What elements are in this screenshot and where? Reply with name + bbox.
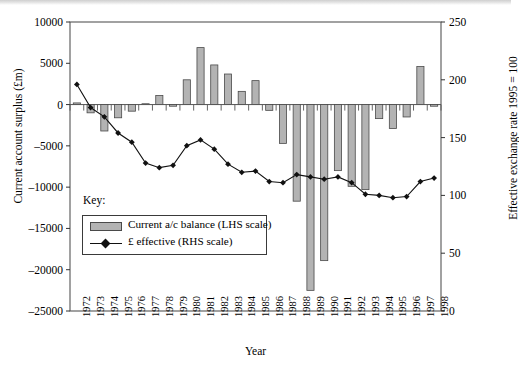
line-marker-1981 (198, 137, 204, 143)
x-tick-label-1986: 1986 (274, 296, 285, 317)
bar-1984 (238, 91, 245, 104)
bar-1992 (348, 105, 355, 187)
bar-1996 (403, 105, 410, 117)
y-left-tick-label: 0 (57, 99, 63, 111)
line-marker-1977 (143, 160, 149, 166)
x-tick-label-1983: 1983 (233, 296, 244, 317)
bar-1991 (334, 105, 341, 171)
x-tick-label-1997: 1997 (425, 296, 436, 317)
line-marker-1998 (431, 175, 437, 181)
x-tick-label-1978: 1978 (164, 296, 175, 317)
bar-1989 (307, 105, 314, 291)
x-tick-label-1987: 1987 (287, 296, 298, 317)
y-left-tick-label: –20000 (28, 264, 64, 276)
x-tick-label-1998: 1998 (439, 296, 450, 317)
x-tick-label-1975: 1975 (123, 296, 134, 317)
legend-bar-label: Current a/c balance (LHS scale) (128, 218, 272, 230)
x-tick-label-1974: 1974 (109, 296, 120, 317)
x-tick-label-1993: 1993 (370, 296, 381, 317)
x-tick-label-1992: 1992 (356, 296, 367, 317)
line-marker-1987 (280, 180, 286, 186)
bar-1978 (156, 95, 163, 104)
y-left-tick-label: –5000 (33, 140, 63, 152)
y-left-tick-label: –10000 (28, 181, 64, 193)
line-marker-1991 (335, 174, 341, 180)
line-marker-1984 (239, 169, 245, 175)
legend-line-label: £ effective (RHS scale) (128, 235, 232, 247)
line-marker-1972 (74, 82, 80, 88)
bar-1987 (279, 105, 286, 144)
line-marker-1995 (390, 195, 396, 201)
bar-1983 (224, 74, 231, 105)
y-left-tick-label: 5000 (40, 57, 63, 69)
bar-1985 (252, 81, 259, 105)
x-tick-label-1980: 1980 (191, 296, 202, 317)
x-tick-label-1996: 1996 (411, 296, 422, 317)
bar-1986 (266, 105, 273, 111)
legend-title: Key: (83, 194, 105, 206)
y-axis-right-title: Effective exchange rate 1995 = 100 (507, 23, 519, 253)
y-right-tick-label: 250 (449, 16, 467, 28)
y-left-tick-label: –25000 (28, 305, 64, 317)
bar-1995 (389, 105, 396, 129)
bar-1976 (128, 105, 135, 112)
x-axis-title: Year (0, 345, 511, 357)
x-tick-label-1981: 1981 (205, 296, 216, 317)
x-tick-label-1972: 1972 (81, 296, 92, 317)
plot-frame (70, 22, 441, 311)
bar-1977 (142, 104, 149, 105)
bar-1990 (321, 105, 328, 261)
x-tick-label-1977: 1977 (150, 296, 161, 317)
x-tick-label-1990: 1990 (329, 296, 340, 317)
line-marker-1976 (129, 139, 135, 145)
y-right-tick-label: 200 (449, 74, 467, 86)
line-marker-1994 (376, 193, 382, 199)
bar-1988 (293, 105, 300, 202)
bar-1981 (197, 48, 204, 105)
x-tick-label-1979: 1979 (178, 296, 189, 317)
bar-1994 (376, 105, 383, 119)
chart-legend: Current a/c balance (LHS scale) £ effect… (82, 215, 267, 255)
y-right-tick-label: 50 (449, 247, 461, 259)
bar-1975 (115, 105, 122, 118)
x-tick-label-1984: 1984 (246, 296, 257, 317)
y-right-tick-label: 150 (449, 132, 467, 144)
x-tick-label-1994: 1994 (384, 296, 395, 317)
y-axis-left-title: Current account surplus (£m) (12, 36, 24, 236)
bar-1980 (183, 80, 190, 105)
y-left-tick-label: –15000 (28, 222, 64, 234)
y-right-tick-label: 100 (449, 189, 467, 201)
x-tick-label-1995: 1995 (397, 296, 408, 317)
x-tick-label-1991: 1991 (342, 296, 353, 317)
bar-1998 (431, 105, 438, 107)
x-tick-label-1985: 1985 (260, 296, 271, 317)
line-marker-1978 (156, 165, 162, 171)
legend-bar-swatch-icon (90, 222, 122, 231)
legend-diamond-marker-icon (101, 239, 111, 249)
bar-1997 (417, 67, 424, 105)
y-left-tick-label: 10000 (34, 16, 63, 28)
x-tick-label-1976: 1976 (136, 296, 147, 317)
x-tick-label-1982: 1982 (219, 296, 230, 317)
bar-1982 (211, 65, 218, 105)
bar-1972 (73, 103, 80, 105)
bar-1979 (169, 105, 176, 107)
x-tick-label-1973: 1973 (95, 296, 106, 317)
x-tick-label-1989: 1989 (315, 296, 326, 317)
x-tick-label-1988: 1988 (301, 296, 312, 317)
bar-1993 (362, 105, 369, 190)
